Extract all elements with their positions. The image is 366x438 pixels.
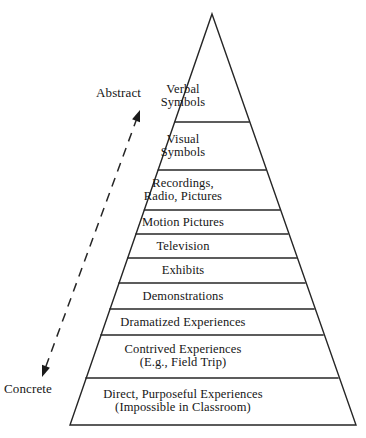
pyramid-canvas [0,0,366,438]
pyramid-outline [70,14,356,425]
axis-arrowhead-down-icon [42,365,50,377]
axis-arrowhead-up-icon [132,110,140,122]
dale-cone-of-experience-diagram: Verbal SymbolsVisual SymbolsRecordings, … [0,0,366,438]
axis-label-concrete: Concrete [4,381,52,397]
axis-label-abstract: Abstract [96,85,141,101]
